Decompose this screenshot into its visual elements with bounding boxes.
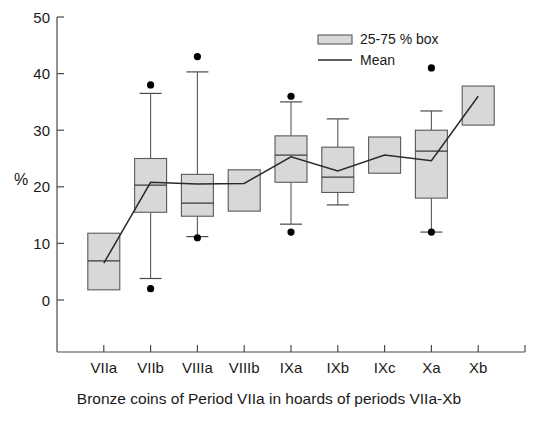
outlier-point [194, 234, 201, 241]
outlier-point [428, 228, 435, 235]
legend-swatch-box [318, 35, 352, 44]
outlier-point [428, 64, 435, 71]
x-tick-label: VIIIb [229, 359, 260, 376]
box-iqr [228, 170, 260, 211]
y-tick-label: 0 [42, 292, 50, 309]
box-series-layer [88, 53, 494, 292]
outlier-point [287, 93, 294, 100]
box-iqr [415, 130, 447, 198]
x-tick-label: IXa [280, 359, 303, 376]
x-axis: VIIaVIIbVIIIaVIIIbIXaIXbIXcXaXb [57, 345, 525, 376]
box-iqr [275, 136, 307, 182]
x-tick-label: VIIa [90, 359, 117, 376]
box-group [275, 93, 307, 236]
box-group [322, 119, 354, 205]
outlier-point [147, 81, 154, 88]
x-tick-label: IXc [374, 359, 396, 376]
outlier-point [147, 285, 154, 292]
y-tick-group: 01020304050 [33, 9, 64, 309]
figure-caption: Bronze coins of Period VIIa in hoards of… [77, 390, 461, 407]
box-group [181, 53, 213, 241]
boxplot-figure: 01020304050 % VIIaVIIbVIIIaVIIIbIXaIXbIX… [0, 0, 538, 425]
y-axis-title: % [14, 171, 28, 188]
y-tick-label: 20 [33, 178, 50, 195]
box-iqr [181, 174, 213, 216]
legend-label-box: 25-75 % box [360, 31, 439, 47]
outlier-point [287, 228, 294, 235]
boxplot-canvas: 01020304050 % VIIaVIIbVIIIaVIIIbIXaIXbIX… [0, 0, 538, 425]
legend: 25-75 % box Mean [318, 31, 439, 68]
box-group [88, 233, 120, 290]
y-tick-label: 50 [33, 9, 50, 26]
x-tick-label: VIIb [137, 359, 164, 376]
y-tick-label: 30 [33, 122, 50, 139]
box-group [228, 170, 260, 211]
box-iqr [322, 147, 354, 192]
outlier-point [194, 53, 201, 60]
box-iqr [462, 86, 494, 125]
legend-label-mean: Mean [360, 52, 395, 68]
x-tick-label: VIIIa [182, 359, 214, 376]
y-axis: 01020304050 % [14, 9, 64, 353]
x-tick-group: VIIaVIIbVIIIaVIIIbIXaIXbIXcXaXb [90, 345, 487, 376]
x-tick-label: Xb [469, 359, 487, 376]
box-group [462, 86, 494, 125]
box-group [135, 81, 167, 292]
x-tick-label: Xa [422, 359, 441, 376]
y-tick-label: 40 [33, 65, 50, 82]
x-tick-label: IXb [327, 359, 350, 376]
box-group [415, 64, 447, 235]
y-tick-label: 10 [33, 235, 50, 252]
